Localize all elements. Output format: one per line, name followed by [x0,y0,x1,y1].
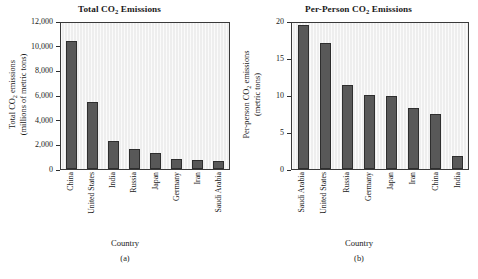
x-axis-tick-label: Russia [130,172,138,193]
y-axis-ticks-b: 05101520 [239,22,291,170]
chart-title-b-prefix: Per-Person CO [305,4,366,14]
chart-title-a-prefix: Total CO [78,4,115,14]
bar [430,114,441,170]
y-axis-tick-mark [56,145,60,146]
chart-title-b: Per-Person CO2 Emissions [239,4,478,14]
chart-title-b-subscript: 2 [366,8,369,15]
x-axis-tick-label: United States [320,172,328,214]
y-axis-tick-mark [287,22,291,23]
y-axis-tick-mark [56,96,60,97]
y-axis-tick-label: 8,000 [35,67,56,75]
x-axis-tick-label: Germany [173,172,181,201]
x-axis-title-a: Country [20,238,230,248]
chart-title-a: Total CO2 Emissions [0,4,239,14]
x-axis-tick-label: United States [88,172,96,214]
bar [108,141,119,169]
bar [408,108,419,169]
y-axis-tick-mark [287,170,291,171]
chart-title-a-subscript: 2 [115,8,118,15]
bar-series-b [292,23,468,169]
y-axis-tick-mark [56,170,60,171]
bar [298,25,309,169]
bar [386,96,397,169]
chart-panel-a: Total CO2 Emissions Total CO2 emissions … [0,0,239,279]
y-axis-tick-label: 6,000 [35,92,56,100]
y-axis-tick-label: 15 [276,55,287,63]
bar [192,160,203,169]
bar [213,161,224,169]
plot-area-a [60,22,230,170]
chart-title-b-suffix: Emissions [369,4,412,14]
subplot-caption-a: (a) [20,254,230,263]
x-axis-tick-label: Iran [194,172,202,185]
x-axis-tick-label: Japan [387,172,395,190]
y-axis-tick-mark [287,96,291,97]
y-axis-tick-mark [287,133,291,134]
x-axis-tick-label: Germany [365,172,373,201]
y-axis-tick-mark [56,22,60,23]
bar [320,43,331,169]
x-axis-tick-label: India [109,172,117,188]
y-axis-tick-label: 4,000 [35,117,56,125]
x-axis-tick-label: Saudi Arabia [298,172,306,213]
bar [66,41,77,169]
figure-container: Total CO2 Emissions Total CO2 emissions … [0,0,478,279]
x-axis-tick-label: India [454,172,462,188]
chart-panel-b: Per-Person CO2 Emissions Per-person CO2 … [239,0,478,279]
y-axis-tick-label: 2,000 [35,141,56,149]
y-axis-tick-mark [56,120,60,121]
x-axis-tick-label: Saudi Arabia [215,172,223,213]
x-axis-labels-a: ChinaUnited StatesIndiaRussiaJapanGerman… [60,172,230,234]
y-axis-tick-mark [287,59,291,60]
x-axis-tick-label: Russia [343,172,351,193]
bar-series-a [61,23,229,169]
y-axis-tick-label: 10,000 [31,43,56,51]
y-axis-tick-label: 12,000 [31,18,56,26]
bar [171,159,182,169]
chart-title-a-suffix: Emissions [118,4,161,14]
x-axis-tick-label: China [432,172,440,191]
y-axis-tick-label: 5 [280,129,287,137]
bar [150,153,161,169]
plot-area-b [291,22,469,170]
subplot-caption-b: (b) [249,254,469,263]
x-axis-tick-label: Iran [409,172,417,185]
y-axis-tick-label: 10 [276,92,287,100]
y-axis-tick-mark [56,46,60,47]
bar [129,149,140,169]
x-axis-labels-b: Saudi ArabiaUnited StatesRussiaGermanyJa… [291,172,469,234]
y-axis-tick-label: 0 [280,166,287,174]
bar [364,95,375,169]
y-axis-tick-mark [56,71,60,72]
y-axis-ticks-a: 02,0004,0006,0008,00010,00012,000 [0,22,60,170]
bar [87,102,98,169]
y-axis-tick-label: 0 [49,166,56,174]
x-axis-tick-label: China [67,172,75,191]
y-axis-tick-label: 20 [276,18,287,26]
bar [452,156,463,169]
x-axis-title-b: Country [249,238,469,248]
bar [342,85,353,169]
x-axis-tick-label: Japan [152,172,160,190]
